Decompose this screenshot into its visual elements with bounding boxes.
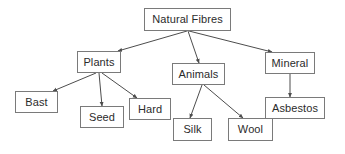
node-hard[interactable]: Hard — [129, 98, 171, 120]
node-label: Bast — [25, 97, 47, 108]
edge-plants-seed — [99, 73, 102, 106]
edge-natural-fibres-mineral — [189, 31, 272, 52]
node-mineral[interactable]: Mineral — [265, 52, 315, 74]
node-label: Silk — [183, 124, 201, 135]
edge-natural-fibres-animals — [188, 31, 199, 63]
node-bast[interactable]: Bast — [15, 91, 58, 113]
diagram-canvas: Natural Fibres Plants Animals Mineral Ba… — [0, 0, 345, 154]
node-natural-fibres[interactable]: Natural Fibres — [144, 8, 231, 31]
node-label: Wool — [238, 124, 263, 135]
node-label: Seed — [89, 112, 115, 123]
node-label: Animals — [179, 69, 219, 80]
node-label: Natural Fibres — [152, 14, 222, 25]
edge-animals-wool — [204, 85, 243, 118]
node-animals[interactable]: Animals — [172, 63, 225, 85]
node-label: Asbestos — [272, 103, 318, 114]
node-asbestos[interactable]: Asbestos — [265, 97, 325, 119]
edge-natural-fibres-plants — [118, 31, 187, 51]
node-plants[interactable]: Plants — [77, 51, 121, 73]
edge-animals-silk — [190, 85, 202, 118]
node-silk[interactable]: Silk — [173, 118, 212, 141]
node-label: Plants — [83, 57, 114, 68]
edge-plants-hard — [102, 73, 137, 98]
node-seed[interactable]: Seed — [80, 106, 124, 128]
edge-plants-bast — [53, 73, 96, 91]
node-label: Mineral — [272, 58, 309, 69]
node-label: Hard — [138, 104, 162, 115]
node-wool[interactable]: Wool — [228, 118, 273, 141]
